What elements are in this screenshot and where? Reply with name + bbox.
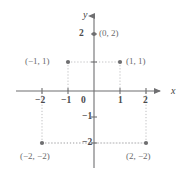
y-axis-label: y	[83, 10, 87, 20]
x-tick-label-1: 1	[118, 96, 123, 106]
point-label-neg1-1: (−1, 1)	[25, 57, 50, 66]
x-axis-label: x	[171, 86, 175, 96]
point-neg1-1	[66, 60, 70, 64]
x-tick-label-neg2: −2	[35, 96, 45, 106]
point-label-0-2: (0, 2)	[99, 29, 119, 38]
x-tick-label-2: 2	[143, 96, 148, 106]
y-tick-label-neg2: −2	[82, 138, 92, 148]
y-tick-label-2: 2	[79, 29, 84, 39]
point-1-1	[118, 60, 122, 64]
point-2-neg2	[144, 141, 148, 145]
point-neg2-neg2	[40, 141, 44, 145]
point-label-2-neg2: (2, −2)	[126, 152, 151, 161]
origin-label: 0	[81, 96, 86, 106]
coordinate-plane-figure: x y −2 −1 0 1 2 2 −1 −2 (0, 2) (−1, 1) (…	[0, 0, 189, 177]
point-label-1-1: (1, 1)	[126, 57, 146, 66]
point-label-neg2-neg2: (−2, −2)	[20, 152, 50, 161]
x-tick-label-neg1: −1	[61, 96, 71, 106]
y-tick-label-neg1: −1	[82, 112, 92, 122]
point-0-2	[92, 32, 96, 36]
